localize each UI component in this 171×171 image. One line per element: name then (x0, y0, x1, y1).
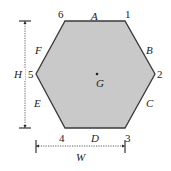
hexagon-diagram: 6 1 2 3 4 5 A B C D E F G H W (0, 0, 171, 171)
hexagon-shape (36, 21, 155, 128)
width-dimension: W (36, 140, 125, 163)
vertex-label-3: 3 (125, 132, 131, 144)
vertex-label-1: 1 (125, 8, 131, 20)
width-label: W (76, 151, 86, 163)
vertex-label-5: 5 (28, 68, 34, 80)
vertex-label-6: 6 (58, 8, 64, 20)
vertex-label-4: 4 (59, 132, 65, 144)
centroid-label: G (96, 77, 104, 89)
edge-label-E: E (33, 97, 41, 109)
edge-label-B: B (146, 44, 153, 56)
edge-label-D: D (90, 132, 99, 144)
height-label: H (13, 68, 23, 80)
edge-label-C: C (146, 97, 154, 109)
edge-label-F: F (34, 44, 42, 56)
vertex-label-2: 2 (157, 68, 163, 80)
edge-label-A: A (90, 10, 98, 22)
centroid-point (96, 73, 99, 76)
